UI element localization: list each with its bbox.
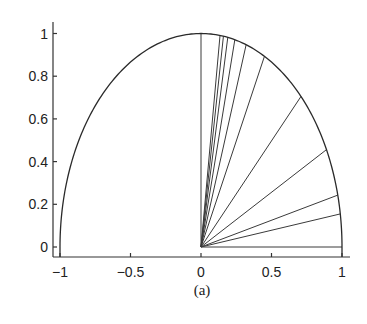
y-tick-label: 0 (40, 239, 48, 255)
x-tick-label: 0 (197, 264, 205, 280)
ray-line (201, 35, 220, 247)
semicircle-ray-plot: −1−0.500.51 00.20.40.60.81 (a) (0, 0, 367, 324)
rays-from-origin (201, 34, 342, 248)
ray-line (201, 37, 228, 247)
y-tick-label: 1 (40, 26, 48, 42)
ray-line (201, 195, 338, 247)
ray-line (201, 96, 301, 247)
y-tick-label: 0.4 (29, 154, 49, 170)
ray-line (201, 56, 264, 247)
x-tick-label: 0.5 (262, 264, 282, 280)
ray-line (201, 40, 235, 247)
x-tick-label: 1 (338, 264, 346, 280)
figure-caption: (a) (194, 282, 211, 299)
y-tick-label: 0.6 (29, 111, 49, 127)
x-tick-label: −1 (52, 264, 68, 280)
y-tick-label: 0.8 (29, 68, 49, 84)
x-tick-label: −0.5 (117, 264, 145, 280)
ray-line (201, 36, 223, 247)
y-tick-label: 0.2 (29, 196, 49, 212)
